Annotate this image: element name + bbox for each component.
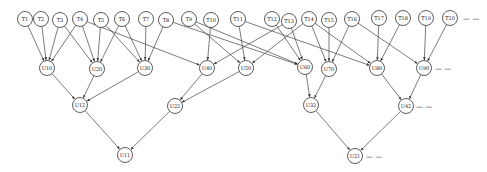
node-label: T11	[233, 16, 243, 22]
continuation-ellipsis: — —	[416, 103, 432, 111]
node-label: U10	[42, 65, 53, 71]
node-u10: U10	[40, 61, 55, 76]
node-label: T17	[374, 15, 384, 21]
node-t10: T10	[204, 13, 219, 28]
node-u21: U21	[348, 149, 363, 164]
node-t3: T3	[53, 13, 68, 28]
edge-u80-to-u42	[382, 74, 402, 100]
node-t19: T19	[419, 11, 434, 26]
edge-u40-to-u22	[180, 74, 202, 100]
edge-t1-to-u10	[28, 26, 44, 61]
node-label: T5	[98, 17, 105, 23]
edge-t17-to-u80	[377, 25, 378, 60]
node-u50: U50	[239, 61, 254, 76]
node-label: U80	[372, 65, 383, 71]
node-u20: U20	[90, 62, 105, 77]
edge-t11-to-u50	[239, 26, 245, 60]
node-label: T20	[445, 15, 455, 21]
node-label: U90	[419, 65, 430, 71]
node-u40: U40	[200, 61, 215, 76]
edge-u32-to-u21	[316, 111, 350, 150]
node-label: U60	[300, 64, 311, 70]
node-t1: T1	[18, 12, 33, 27]
edge-u12-to-u11	[85, 111, 120, 149]
node-t8: T8	[159, 13, 174, 28]
node-t15: T15	[322, 13, 337, 28]
node-t5: T5	[94, 13, 109, 28]
node-t18: T18	[396, 11, 411, 26]
node-label: U30	[140, 65, 151, 71]
node-u11: U11	[118, 148, 133, 163]
node-label: U11	[120, 152, 131, 158]
node-t20: T20	[443, 11, 458, 26]
node-u70: U70	[322, 62, 337, 77]
edge-t8-to-u30	[148, 27, 163, 61]
node-label: U70	[324, 66, 335, 72]
edge-t9-to-u50	[195, 24, 240, 63]
node-t2: T2	[34, 12, 49, 27]
edge-u22-to-u11	[131, 111, 170, 149]
node-u30: U30	[138, 61, 153, 76]
node-label: T10	[206, 17, 216, 23]
node-label: U12	[75, 102, 86, 108]
edge-t13-to-u40	[214, 25, 283, 64]
continuation-ellipsis: — —	[366, 153, 382, 161]
node-label: T13	[284, 18, 294, 24]
edge-u60-to-u32	[306, 74, 310, 97]
edge-t11-to-u80	[245, 21, 369, 65]
continuation-ellipsis: — —	[435, 65, 451, 73]
node-label: U50	[241, 65, 252, 71]
node-t11: T11	[231, 12, 246, 27]
edge-t5-to-u20	[98, 27, 101, 61]
edge-t4-to-u20	[82, 26, 94, 61]
node-label: T4	[77, 16, 84, 22]
node-label: T12	[267, 16, 277, 22]
edge-t20-to-u90	[428, 25, 447, 61]
edge-u20-to-u12	[83, 76, 93, 98]
node-u90: U90	[417, 61, 432, 76]
node-label: T14	[304, 16, 314, 22]
node-t6: T6	[115, 12, 130, 27]
edge-t4-to-u40	[87, 22, 200, 65]
node-u42: U42	[399, 99, 414, 114]
node-label: T9	[186, 16, 193, 22]
node-t16: T16	[345, 12, 360, 27]
node-label: T15	[324, 17, 334, 23]
node-label: U42	[401, 103, 412, 109]
continuation-markers: — —— —— —— —	[366, 15, 479, 161]
node-u32: U32	[304, 98, 319, 113]
edge-u70-to-u32	[315, 76, 326, 98]
node-label: U40	[202, 65, 213, 71]
node-t12: T12	[265, 12, 280, 27]
node-label: T16	[347, 16, 357, 22]
edge-t16-to-u90	[358, 23, 417, 63]
edge-u42-to-u21	[361, 111, 401, 150]
node-label: T6	[119, 16, 126, 22]
node-label: T3	[57, 17, 64, 23]
node-t4: T4	[73, 12, 88, 27]
node-u60: U60	[298, 60, 313, 75]
edge-t14-to-u50	[252, 24, 303, 63]
edge-t7-to-u30	[145, 26, 146, 60]
node-label: T1	[22, 16, 29, 22]
node-u12: U12	[73, 98, 88, 113]
node-t13: T13	[282, 14, 297, 29]
tree-diagram: T1T2T3T4T5T6T7T8T9T10T11T12T13T14T15T16T…	[0, 0, 487, 172]
node-t17: T17	[372, 11, 387, 26]
node-label: T2	[38, 16, 45, 22]
node-label: U22	[170, 103, 181, 109]
node-t14: T14	[302, 12, 317, 27]
edge-t4-to-u10	[51, 25, 75, 61]
edge-t3-to-u10	[49, 27, 58, 60]
edge-t3-to-u20	[65, 26, 93, 63]
node-u22: U22	[168, 99, 183, 114]
edge-t14-to-u70	[312, 26, 326, 62]
edge-t19-to-u90	[424, 25, 425, 60]
edges-layer	[28, 21, 446, 150]
node-label: T8	[163, 17, 170, 23]
node-label: U20	[92, 66, 103, 72]
edge-u90-to-u42	[409, 75, 420, 99]
edge-t14-to-u80	[315, 23, 370, 63]
edge-t16-to-u70	[332, 26, 349, 62]
node-label: T19	[421, 15, 431, 21]
